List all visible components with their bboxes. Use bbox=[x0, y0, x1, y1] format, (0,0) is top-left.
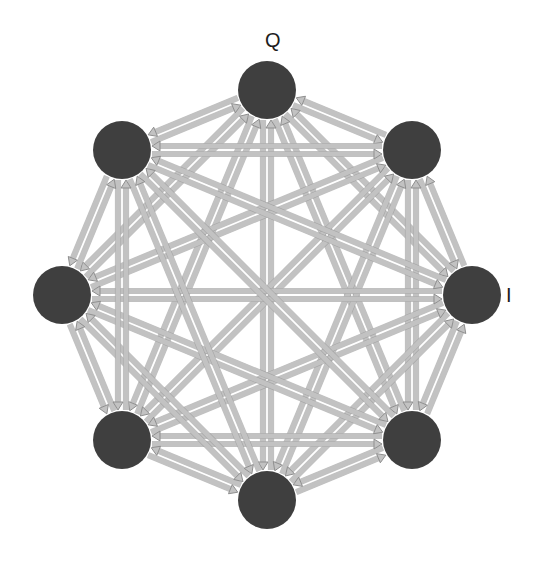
node-label-i: I bbox=[506, 285, 512, 305]
graph-node[interactable] bbox=[443, 266, 501, 324]
graph-node[interactable] bbox=[383, 121, 441, 179]
graph-edge bbox=[152, 439, 382, 449]
directed-complete-graph bbox=[0, 0, 541, 562]
node-layer bbox=[33, 61, 501, 529]
graph-node[interactable] bbox=[33, 266, 91, 324]
graph-node[interactable] bbox=[238, 471, 296, 529]
graph-node[interactable] bbox=[93, 411, 151, 469]
graph-node[interactable] bbox=[238, 61, 296, 119]
graph-edge bbox=[121, 180, 131, 410]
graph-figure: Q I bbox=[0, 0, 541, 562]
graph-edge bbox=[403, 180, 413, 410]
graph-edge bbox=[113, 180, 123, 410]
node-label-q: Q bbox=[265, 30, 281, 50]
graph-node[interactable] bbox=[383, 411, 441, 469]
graph-node[interactable] bbox=[93, 121, 151, 179]
graph-edge bbox=[152, 141, 382, 151]
graph-edge bbox=[152, 149, 382, 159]
graph-edge bbox=[152, 431, 382, 441]
graph-edge bbox=[411, 180, 421, 410]
